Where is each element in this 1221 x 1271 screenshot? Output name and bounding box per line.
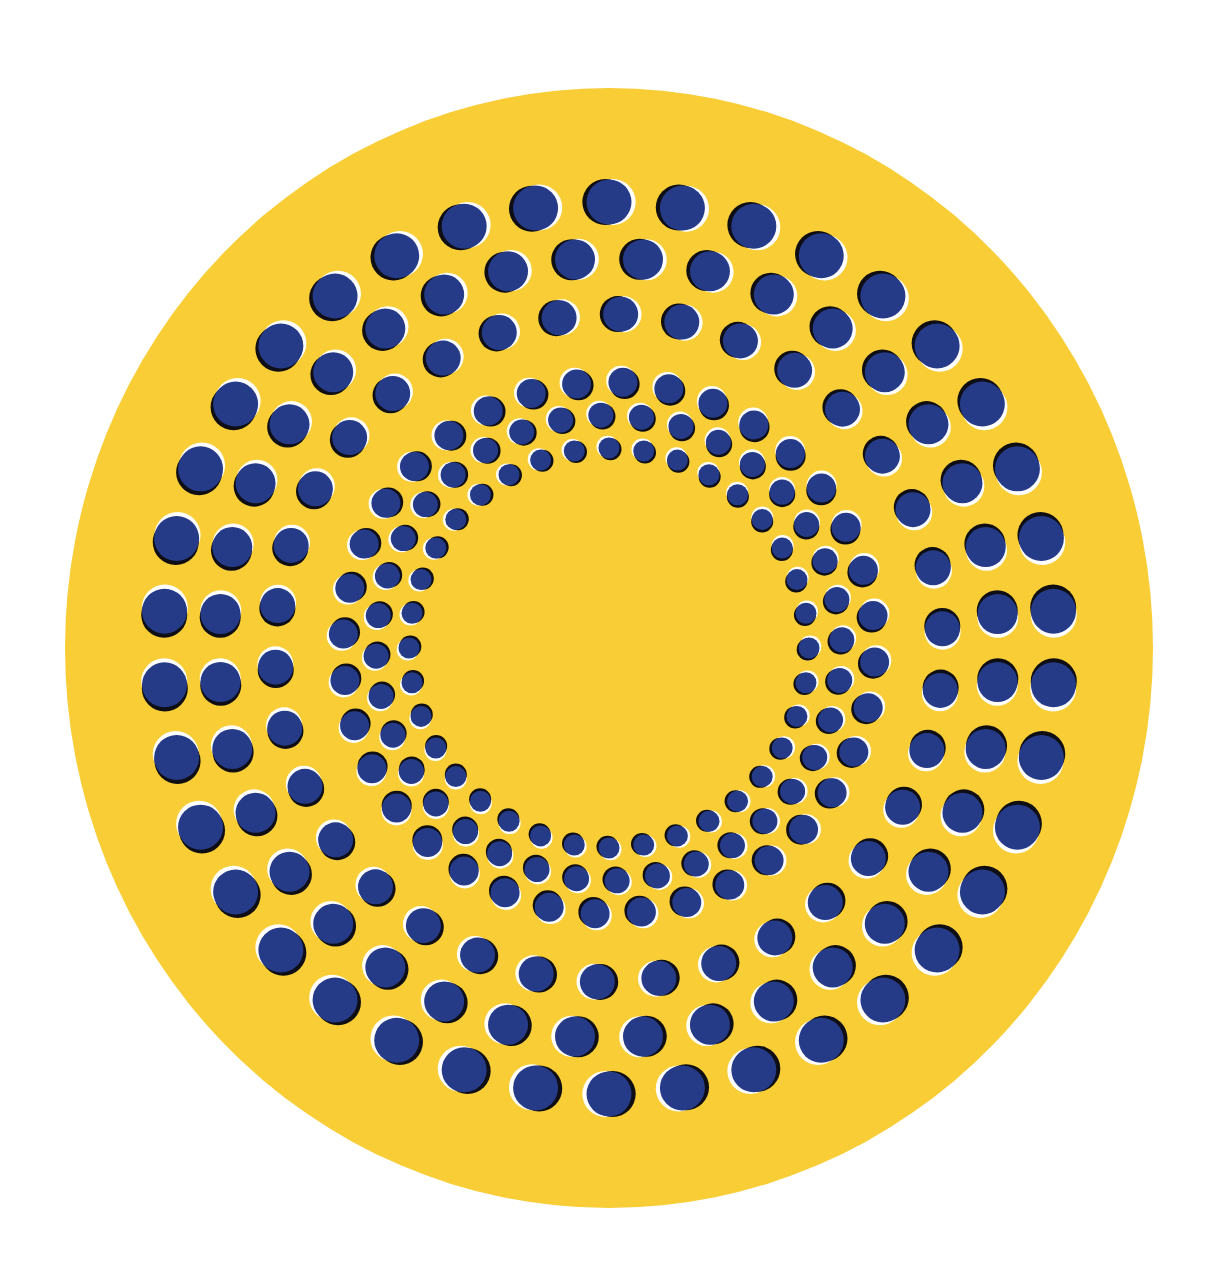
dot-fill: [564, 866, 589, 891]
dot: [412, 825, 443, 860]
dot-fill: [487, 841, 512, 866]
dot: [725, 790, 751, 812]
dot-fill: [599, 838, 620, 859]
dot-fill: [313, 352, 353, 392]
dot-fill: [434, 421, 463, 450]
dot: [1030, 658, 1077, 711]
illusion-artwork: [0, 0, 1221, 1271]
dot-fill: [690, 251, 730, 291]
dot: [793, 509, 820, 539]
dot-fill: [740, 452, 765, 477]
dot-fill: [915, 928, 960, 973]
dot: [786, 814, 821, 845]
dot-fill: [825, 392, 860, 427]
dot-fill: [942, 793, 982, 833]
dot-fill: [786, 569, 807, 590]
dot-fill: [633, 834, 654, 855]
dot-fill: [357, 754, 386, 783]
dot-fill: [772, 538, 793, 559]
dot-fill: [664, 305, 699, 340]
dot-fill: [581, 899, 610, 928]
dot: [509, 1064, 562, 1111]
dot-fill: [453, 819, 478, 844]
dot-fill: [865, 439, 900, 474]
dot-fill: [772, 738, 793, 759]
dot-fill: [442, 204, 487, 249]
dot-fill: [645, 863, 670, 888]
dot-fill: [608, 368, 637, 397]
dot: [576, 964, 618, 1000]
dot: [977, 590, 1019, 638]
dot-fill: [849, 556, 878, 585]
dot-fill: [654, 374, 683, 403]
dot-fill: [391, 526, 416, 551]
dot-fill: [555, 239, 595, 279]
dot-fill: [519, 956, 554, 991]
dot-fill: [258, 650, 293, 685]
dot-fill: [699, 811, 720, 832]
dot: [467, 484, 493, 506]
dot: [398, 756, 425, 786]
dot-fill: [715, 871, 744, 900]
dot-fill: [667, 825, 688, 846]
dot-fill: [860, 647, 889, 676]
dot-fill: [667, 450, 688, 471]
dot-fill: [1019, 516, 1064, 561]
dot-fill: [908, 404, 948, 444]
dot: [778, 778, 808, 805]
dot-fill: [587, 180, 632, 225]
dot: [141, 658, 188, 711]
dot: [423, 789, 449, 819]
dot: [600, 296, 642, 332]
dot-fill: [915, 323, 960, 368]
dot-fill: [786, 706, 807, 727]
dot: [410, 491, 440, 518]
dot-fill: [382, 794, 411, 823]
dot-fill: [488, 1005, 528, 1045]
dot-fill: [470, 484, 491, 505]
dot-fill: [1031, 589, 1076, 634]
dot-fill: [288, 769, 323, 804]
dot-fill: [318, 822, 353, 857]
dot-fill: [731, 1047, 776, 1092]
dot-fill: [995, 805, 1040, 850]
dot-fill: [865, 904, 905, 944]
dot-fill: [813, 947, 853, 987]
dot-fill: [499, 464, 520, 485]
dot-fill: [142, 589, 187, 634]
dot: [750, 808, 780, 834]
dot: [656, 1064, 709, 1111]
dot: [397, 451, 432, 482]
dot-fill: [411, 569, 432, 590]
dot-fill: [213, 382, 258, 427]
dot: [445, 764, 467, 790]
dot-fill: [267, 711, 302, 746]
dot-fill: [698, 389, 727, 418]
dot: [726, 482, 749, 508]
dot-fill: [178, 805, 223, 850]
dot-fill: [789, 815, 818, 844]
dot: [582, 1071, 635, 1117]
dot-fill: [450, 857, 479, 886]
dot: [1030, 585, 1077, 638]
dot-fill: [587, 1072, 632, 1117]
dot-fill: [795, 603, 816, 624]
dot-fill: [399, 638, 420, 659]
dot-fill: [564, 834, 585, 855]
dot-fill: [365, 947, 405, 987]
dot-fill: [402, 672, 423, 693]
dot-fill: [739, 410, 768, 439]
dot: [509, 184, 562, 231]
dot-fill: [509, 419, 534, 444]
dot-fill: [925, 611, 960, 646]
dot-fill: [374, 1018, 419, 1063]
dot-fill: [542, 300, 577, 335]
dot-fill: [313, 274, 358, 319]
dot: [452, 817, 479, 847]
dot-fill: [213, 869, 258, 914]
yellow-disc: [65, 88, 1153, 1208]
dot-fill: [794, 512, 819, 537]
dot-fill: [706, 430, 731, 455]
dot-fill: [442, 1047, 487, 1092]
dot: [619, 239, 667, 281]
